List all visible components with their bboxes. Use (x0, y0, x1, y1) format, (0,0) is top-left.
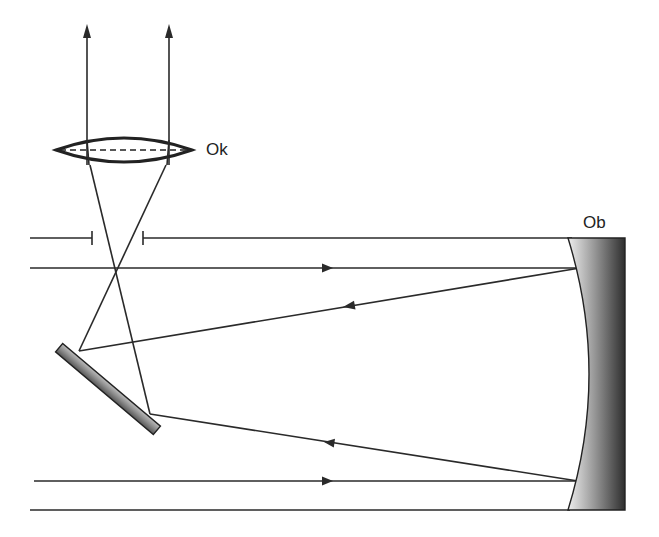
arrowhead-left-upper-icon (343, 301, 356, 310)
arrowhead-right-lower-icon (322, 477, 333, 486)
telescope-diagram (0, 0, 659, 537)
arrowhead-left-lower-icon (324, 439, 335, 448)
reflected-ray-lower (150, 414, 578, 481)
arrowhead-right-upper-icon (322, 264, 333, 273)
eyepiece-label: Ok (206, 140, 228, 160)
objective-mirror (568, 238, 625, 510)
arrowhead-up-right-icon (165, 24, 173, 38)
objective-label: Ob (583, 213, 606, 233)
arrowhead-up-left-icon (83, 24, 91, 38)
reflected-ray-upper (79, 268, 580, 351)
ray-to-eyepiece-right (79, 165, 166, 351)
